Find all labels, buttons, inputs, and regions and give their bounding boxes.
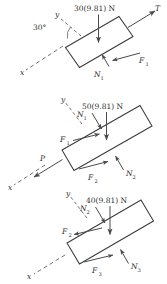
normal-sub-n2-middle: 2	[132, 174, 135, 180]
friction-label-f1-top: F	[138, 56, 145, 65]
x-axis-label-bottom: x	[27, 272, 32, 281]
x-axis-line-middle	[14, 165, 45, 185]
friction-label-f3-bottom: F	[91, 266, 98, 275]
friction-arrow-f1-top	[113, 53, 141, 61]
friction-sub-f3-bottom: 3	[98, 271, 101, 277]
y-axis-label-bottom: y	[65, 189, 71, 198]
normal-arrow-n2-bottom	[96, 207, 106, 223]
block-group-bottom: x y 40(9.81) N N 2 F 2 N 3 F 3	[27, 189, 154, 281]
x-axis-label-middle: x	[8, 183, 13, 192]
angle-label-top: 30°	[33, 23, 47, 32]
normal-sub-n1-middle: 1	[83, 115, 86, 121]
normal-arrow-n2-middle	[116, 156, 124, 170]
weight-label-middle: 50(9.81) N	[82, 102, 123, 111]
y-axis-label-top: y	[54, 10, 60, 19]
weight-label-top: 30(9.81) N	[74, 4, 115, 13]
x-axis-label-top: x	[20, 68, 25, 77]
weight-label-bottom: 40(9.81) N	[86, 196, 127, 205]
free-body-diagram-figure: x y 30° 30(9.81) N T N 1 F 1 x y	[0, 0, 167, 284]
applied-arrow-p-middle	[34, 160, 63, 178]
friction-sub-f2-middle: 2	[94, 178, 97, 184]
normal-arrow-n3-bottom	[121, 250, 129, 264]
block-group-top: x y 30° 30(9.81) N T N 1 F 1	[20, 4, 161, 81]
tension-arrow-top	[128, 11, 155, 28]
friction-label-f2-middle: F	[87, 173, 94, 182]
block-body-top	[66, 17, 134, 68]
friction-sub-f1-top: 1	[145, 61, 148, 67]
applied-label-p-middle: P	[39, 154, 46, 163]
normal-arrow-n1-middle	[92, 113, 102, 129]
x-axis-line-top	[26, 46, 63, 70]
friction-sub-f1-middle: 1	[66, 140, 69, 146]
friction-label-f1-middle: F	[59, 135, 66, 144]
friction-label-f2-bottom: F	[61, 227, 68, 236]
x-axis-line-bottom	[34, 255, 65, 274]
normal-sub-n2-bottom: 2	[86, 209, 89, 215]
normal-arrow-n1-top	[102, 55, 109, 67]
normal-sub-n3-bottom: 3	[137, 267, 140, 273]
block-group-middle: x y 50(9.81) N N 1 F 1 P N 2 F 2	[8, 95, 152, 192]
angle-arc-top	[67, 27, 70, 39]
tension-label-top: T	[155, 4, 161, 13]
y-axis-label-middle: y	[60, 95, 66, 104]
friction-sub-f2-bottom: 2	[68, 232, 71, 238]
normal-sub-n1-top: 1	[100, 75, 103, 81]
